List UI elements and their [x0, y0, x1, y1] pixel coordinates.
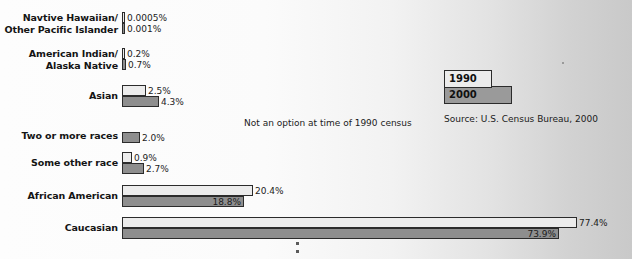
bar-2000[interactable]: 73.9% [122, 228, 559, 239]
bar-2000[interactable]: 4.3% [122, 96, 159, 107]
scan-speck-icon [296, 250, 299, 253]
scan-speck-icon [562, 62, 564, 64]
bar-value-1990: 20.4% [255, 186, 284, 196]
legend-item-1990[interactable]: 1990 [444, 70, 492, 88]
bar-group: 0.9% 2.7% [122, 152, 144, 174]
bar-group: 0.0005% 0.001% [122, 12, 125, 34]
bar-value-2000: 73.9% [527, 229, 556, 239]
chart-page: Navtive Hawaiian/ Other Pacific Islander… [0, 0, 632, 259]
bar-value-1990: 0.2% [127, 49, 150, 59]
bar-2000[interactable]: 2.7% [122, 163, 144, 174]
bar-value-2000: 0.001% [127, 24, 161, 34]
chart-legend: 2000 1990 [444, 70, 564, 110]
bar-1990[interactable]: 20.4% [122, 185, 253, 196]
bar-value-1990: 77.4% [579, 218, 608, 228]
category-label: Caucasian [0, 222, 118, 234]
bar-group: 2.5% 4.3% [122, 85, 159, 107]
bar-1990[interactable]: 2.5% [122, 85, 146, 96]
bar-2000[interactable]: 0.7% [122, 59, 126, 70]
bar-value-2000: 0.7% [128, 60, 151, 70]
category-label: Two or more races [0, 130, 118, 142]
bar-value-1990: 0.9% [134, 153, 157, 163]
source-note: Source: U.S. Census Bureau, 2000 [444, 114, 598, 124]
category-label: Some other race [0, 157, 118, 169]
bar-2000[interactable]: 0.001% [122, 23, 125, 34]
scan-speck-icon [296, 242, 299, 245]
no-data-note: Not an option at time of 1990 census [244, 118, 412, 129]
category-label: Asian [0, 90, 118, 102]
bar-value-2000: 2.0% [142, 133, 165, 143]
bar-value-2000: 18.8% [212, 197, 241, 207]
bar-value-1990: 2.5% [148, 86, 171, 96]
bar-group: Not an option at time of 1990 census 2.0… [122, 119, 140, 143]
bar-value-2000: 2.7% [146, 164, 169, 174]
bar-1990[interactable]: 0.2% [122, 48, 125, 59]
category-label: Navtive Hawaiian/ Other Pacific Islander [0, 12, 118, 35]
bar-2000[interactable]: 18.8% [122, 196, 244, 207]
bar-group: 77.4% 73.9% [122, 217, 577, 239]
bar-value-2000: 4.3% [161, 97, 184, 107]
cut-off-title [0, 0, 632, 5]
legend-item-2000[interactable]: 2000 [444, 86, 512, 104]
bar-group: 20.4% 18.8% [122, 185, 253, 207]
bar-value-1990: 0.0005% [127, 13, 167, 23]
bar-1990[interactable]: 77.4% [122, 217, 577, 228]
bar-1990[interactable]: 0.0005% [122, 12, 125, 23]
category-label: African American [0, 190, 118, 202]
bar-group: 0.2% 0.7% [122, 48, 126, 70]
bar-2000[interactable]: 2.0% [122, 132, 140, 143]
bar-1990[interactable]: 0.9% [122, 152, 132, 163]
category-label: American Indian/ Alaska Native [0, 48, 118, 71]
bar-1990-placeholder [122, 119, 140, 132]
